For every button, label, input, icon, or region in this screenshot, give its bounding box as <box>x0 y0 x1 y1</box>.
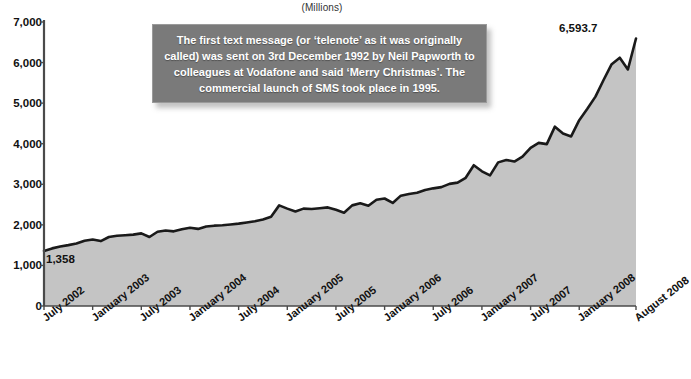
annotation-text: The first text message (or ‘telenote’ as… <box>153 32 486 96</box>
annotation-callout: The first text message (or ‘telenote’ as… <box>152 24 487 103</box>
start-value-label: 1,358 <box>46 253 75 265</box>
end-value-label: 6,593.7 <box>559 22 597 34</box>
